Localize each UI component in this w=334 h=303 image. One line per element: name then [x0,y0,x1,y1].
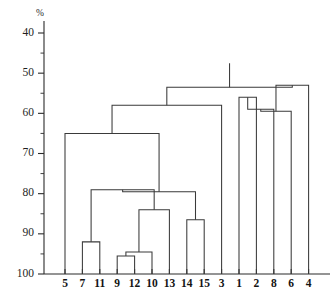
leaf-label-4: 4 [306,277,312,289]
leaf-label-10: 10 [146,277,158,289]
leaf-label-9: 9 [114,277,120,289]
link-m3 [126,252,152,274]
y-tick-label-90: 90 [23,226,35,238]
leaf-label-7: 7 [80,277,86,289]
leaf-label-15: 15 [198,277,210,289]
y-tick-label-80: 80 [23,186,35,198]
y-tick-label-100: 100 [17,267,35,279]
dendrogram-svg: 405060708090100 % 571191210131415312864 [0,0,334,303]
leaf-label-5: 5 [62,277,68,289]
link-m6 [91,190,154,242]
link-m7 [123,190,196,220]
leaf-label-11: 11 [94,277,105,289]
link-m1 [82,242,99,274]
y-axis-ticks [38,33,44,274]
link-m5 [187,220,204,274]
link-m4 [139,210,169,274]
link-m9 [239,97,256,274]
leaf-label-13: 13 [164,277,176,289]
leaf-label-14: 14 [181,277,193,289]
link-m10 [248,97,274,274]
y-tick-label-70: 70 [23,146,35,158]
y-tick-label-60: 60 [23,106,35,118]
y-axis-tick-labels: 405060708090100 [17,26,35,279]
link-m8 [65,133,159,274]
leaf-label-2: 2 [254,277,260,289]
leaf-label-6: 6 [288,277,294,289]
y-tick-label-40: 40 [23,26,35,38]
dendrogram-links [65,63,309,274]
link-m12 [276,85,309,274]
leaf-label-1: 1 [236,277,242,289]
leaf-labels-group: 571191210131415312864 [62,277,312,289]
y-axis-unit-label: % [36,8,44,18]
leaf-label-12: 12 [129,277,141,289]
dendrogram-chart: 405060708090100 % 571191210131415312864 [0,0,334,303]
leaf-label-8: 8 [271,277,277,289]
link-m14 [167,85,292,105]
y-tick-label-50: 50 [23,66,35,78]
link-m11 [261,109,291,274]
link-m2 [117,256,134,274]
y-axis: 405060708090100 % [17,8,330,279]
leaf-label-3: 3 [219,277,225,289]
